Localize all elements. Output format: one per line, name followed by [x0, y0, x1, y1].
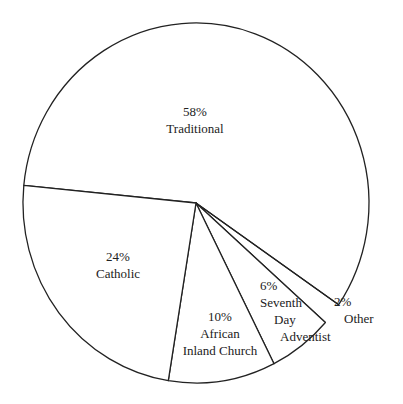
label-catholic: 24% Catholic: [68, 248, 168, 282]
label-sda-name-3: Adventist: [250, 328, 310, 345]
label-traditional: 58% Traditional: [145, 103, 245, 137]
label-sda-name-2: Day: [250, 311, 310, 328]
label-seventh-day-adventist: 6% Seventh Day Adventist: [250, 277, 310, 345]
label-catholic-pct: 24%: [68, 248, 168, 265]
label-sda-name-1: Seventh: [250, 294, 310, 311]
label-other-name: Other: [334, 310, 384, 327]
label-other: 2% Other: [334, 293, 384, 327]
label-catholic-name: Catholic: [68, 265, 168, 282]
label-traditional-name: Traditional: [145, 120, 245, 137]
label-other-pct: 2%: [334, 293, 384, 310]
label-traditional-pct: 58%: [145, 103, 245, 120]
label-sda-pct: 6%: [250, 277, 310, 294]
